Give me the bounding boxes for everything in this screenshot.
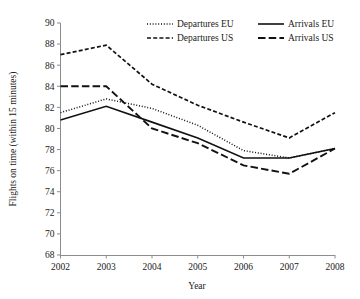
x-axis-title: Year: [188, 281, 206, 291]
y-axis-title: Flights on time (within 15 minutes): [8, 72, 19, 207]
legend-label-arrivals-eu: Arrivals EU: [288, 19, 334, 29]
series-group: [61, 45, 336, 174]
line-chart: 687072747678808284868890 200220032004200…: [0, 0, 360, 299]
x-tick-label: 2006: [234, 262, 253, 272]
y-tick-label: 78: [45, 145, 55, 155]
series-line-departures-us: [61, 45, 336, 138]
chart-legend: Departures EUDepartures USArrivals EUArr…: [147, 19, 334, 43]
y-tick-label: 86: [45, 61, 55, 71]
legend-label-departures-us: Departures US: [177, 33, 233, 43]
chart-canvas: 687072747678808284868890 200220032004200…: [0, 0, 360, 299]
x-axis-tick-group: 2002200320042005200620072008: [51, 255, 345, 272]
y-tick-label: 90: [45, 18, 55, 28]
x-tick-label: 2005: [188, 262, 207, 272]
series-line-arrivals-eu: [61, 106, 336, 158]
y-tick-label: 82: [45, 103, 55, 113]
x-tick-label: 2004: [143, 262, 162, 272]
legend-label-departures-eu: Departures EU: [177, 19, 234, 29]
y-tick-label: 74: [45, 187, 55, 197]
legend-label-arrivals-us: Arrivals US: [288, 33, 334, 43]
y-tick-label: 68: [45, 250, 55, 260]
y-tick-label: 72: [45, 208, 55, 218]
y-axis-tick-group: 687072747678808284868890: [45, 18, 61, 260]
y-tick-label: 84: [45, 82, 55, 92]
y-tick-label: 76: [45, 166, 55, 176]
x-tick-label: 2002: [51, 262, 70, 272]
y-tick-label: 80: [45, 124, 55, 134]
y-tick-label: 88: [45, 39, 55, 49]
series-line-arrivals-us: [61, 86, 336, 174]
x-tick-label: 2007: [280, 262, 299, 272]
x-tick-label: 2008: [326, 262, 345, 272]
y-tick-label: 70: [45, 229, 55, 239]
x-tick-label: 2003: [97, 262, 116, 272]
